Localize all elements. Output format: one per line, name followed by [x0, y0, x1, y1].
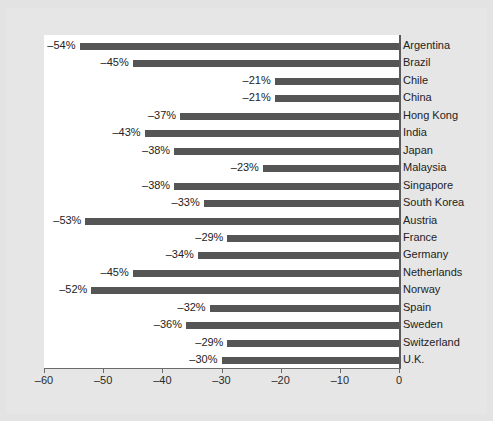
bar-value-label: –33%	[166, 196, 200, 208]
bar-value-label: –29%	[189, 336, 223, 348]
bar-row: –38%Japan	[0, 143, 493, 160]
x-axis-tick	[222, 369, 223, 373]
bar-row: –32%Spain	[0, 300, 493, 317]
x-axis-tick-label: –30	[212, 374, 230, 386]
bar	[174, 148, 399, 155]
bar-value-label: –45%	[95, 266, 129, 278]
bar-value-label: –30%	[184, 353, 218, 365]
bar-value-label: –53%	[47, 214, 81, 226]
bar-value-label: –34%	[160, 248, 194, 260]
bar-chart-figure: –60–50–40–30–20–100 –54%Argentina–45%Bra…	[0, 0, 493, 421]
bar-category-label: Netherlands	[403, 266, 462, 278]
bar-category-label: Norway	[403, 283, 440, 295]
x-axis-tick	[44, 369, 45, 373]
bar-row: –21%Chile	[0, 73, 493, 90]
bar-row: –29%Switzerland	[0, 335, 493, 352]
bar-category-label: Austria	[403, 214, 437, 226]
bar	[85, 218, 399, 225]
bar-row: –43%India	[0, 125, 493, 142]
bar-row: –34%Germany	[0, 247, 493, 264]
bar	[180, 113, 399, 120]
bar-category-label: Hong Kong	[403, 109, 458, 121]
bar	[91, 287, 399, 294]
bar-row: –33%South Korea	[0, 195, 493, 212]
bar-value-label: –21%	[237, 91, 271, 103]
bar-value-label: –32%	[172, 301, 206, 313]
bar-category-label: France	[403, 231, 437, 243]
x-axis-tick	[103, 369, 104, 373]
x-axis-tick	[399, 369, 400, 373]
bar-value-label: –37%	[142, 109, 176, 121]
bar-row: –36%Sweden	[0, 317, 493, 334]
bar	[275, 95, 399, 102]
bar-row: –30%U.K.	[0, 352, 493, 369]
bar-value-label: –23%	[225, 161, 259, 173]
bar-row: –21%China	[0, 90, 493, 107]
bar	[222, 357, 400, 364]
bar	[80, 43, 400, 50]
bar-category-label: Brazil	[403, 56, 431, 68]
bar	[275, 78, 399, 85]
bar-row: –53%Austria	[0, 213, 493, 230]
bar-category-label: Malaysia	[403, 161, 446, 173]
bar-row: –45%Netherlands	[0, 265, 493, 282]
bar-row: –23%Malaysia	[0, 160, 493, 177]
x-axis-tick	[340, 369, 341, 373]
bar	[133, 270, 399, 277]
bar	[204, 200, 399, 207]
bar	[198, 252, 399, 259]
bar-category-label: Chile	[403, 74, 428, 86]
bar	[174, 183, 399, 190]
bar	[133, 60, 399, 67]
bar-category-label: Singapore	[403, 179, 453, 191]
bar	[227, 235, 399, 242]
x-axis-tick-label: 0	[396, 374, 402, 386]
bar-category-label: China	[403, 91, 432, 103]
bar-value-label: –29%	[189, 231, 223, 243]
bar-row: –37%Hong Kong	[0, 108, 493, 125]
bar-category-label: Germany	[403, 248, 448, 260]
x-axis-tick-label: –20	[271, 374, 289, 386]
bar-category-label: Japan	[403, 144, 433, 156]
bar-row: –29%France	[0, 230, 493, 247]
bar-row: –45%Brazil	[0, 55, 493, 72]
bar-value-label: –21%	[237, 74, 271, 86]
bar-value-label: –54%	[42, 39, 76, 51]
bar-category-label: Argentina	[403, 39, 450, 51]
bar-value-label: –52%	[53, 283, 87, 295]
bar-category-label: U.K.	[403, 353, 424, 365]
bar-value-label: –38%	[136, 179, 170, 191]
bar-category-label: Spain	[403, 301, 431, 313]
bar-row: –52%Norway	[0, 282, 493, 299]
bar-row: –38%Singapore	[0, 178, 493, 195]
x-axis-tick-label: –60	[35, 374, 53, 386]
bar-value-label: –36%	[148, 318, 182, 330]
x-axis-tick-label: –40	[153, 374, 171, 386]
bar-value-label: –45%	[95, 56, 129, 68]
bar-category-label: Switzerland	[403, 336, 460, 348]
bar-row: –54%Argentina	[0, 38, 493, 55]
bar-value-label: –38%	[136, 144, 170, 156]
bar-category-label: South Korea	[403, 196, 464, 208]
bar	[145, 130, 399, 137]
bar	[263, 165, 399, 172]
x-axis-tick-label: –10	[331, 374, 349, 386]
bar	[186, 322, 399, 329]
bar	[227, 340, 399, 347]
bar-category-label: Sweden	[403, 318, 443, 330]
bar	[210, 305, 399, 312]
x-axis-tick	[281, 369, 282, 373]
bar-value-label: –43%	[107, 126, 141, 138]
x-axis-tick	[162, 369, 163, 373]
x-axis-tick-label: –50	[94, 374, 112, 386]
bar-category-label: India	[403, 126, 427, 138]
